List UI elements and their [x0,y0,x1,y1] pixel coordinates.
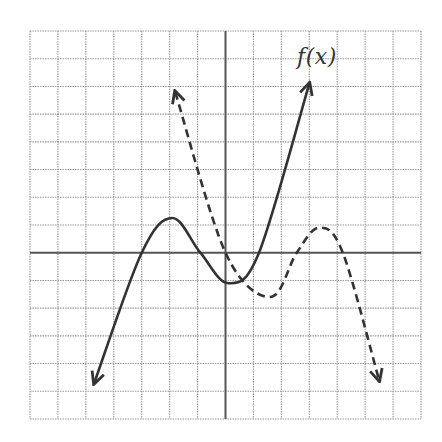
function-label: f(x) [297,44,337,69]
curves [94,84,379,383]
function-graph [0,0,442,442]
dashed-curve [175,92,379,380]
solid-curve-f-of-x [94,84,309,383]
